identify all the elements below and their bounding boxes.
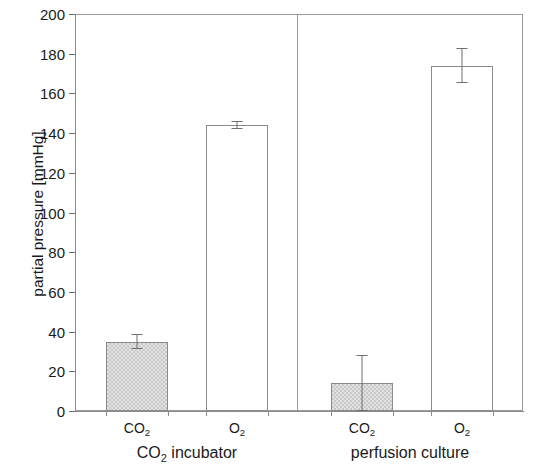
group-label-text: perfusion culture [351, 444, 469, 461]
errorbar-stem [137, 334, 138, 350]
y-tick-label-20: 20 [5, 364, 65, 379]
x-tick-mark [206, 411, 207, 416]
x-label-co2-incubator: CO2 [92, 419, 182, 439]
x-label-co2-perfusion: CO2 [317, 419, 407, 439]
y-tick-label-0: 0 [5, 404, 65, 419]
group-label-subscript: 2 [161, 452, 167, 464]
errorbar-cap-bottom [232, 128, 243, 129]
x-label-o2-incubator: O2 [192, 419, 282, 439]
x-tick-mark [331, 411, 332, 416]
y-tick-label-160: 160 [5, 86, 65, 101]
errorbar-cap-bottom [132, 348, 143, 349]
x-tick-mark [268, 411, 269, 416]
y-axis-line [75, 14, 76, 412]
group-label-tail: incubator [167, 444, 237, 461]
errorbar-o2-perfusion [457, 48, 468, 84]
y-tick-label-40: 40 [5, 325, 65, 340]
x-tick-mark [393, 411, 394, 416]
errorbar-cap-top [232, 121, 243, 122]
bar-o2-perfusion [431, 66, 493, 411]
errorbar-stem [362, 355, 363, 411]
y-tick-label-120: 120 [5, 166, 65, 181]
x-label-text: O [454, 420, 465, 436]
bar-co2-incubator [106, 342, 168, 412]
x-label-subscript: 2 [370, 427, 375, 438]
x-tick-mark [431, 411, 432, 416]
bar-o2-incubator [206, 125, 268, 411]
y-tick-label-140: 140 [5, 126, 65, 141]
errorbar-stem [462, 48, 463, 84]
x-label-text: CO [124, 420, 145, 436]
y-tick-label-100: 100 [5, 206, 65, 221]
bar-chart-figure: partial pressure [mmHg] 200 180 160 140 … [0, 0, 538, 476]
x-axis-line [75, 411, 524, 412]
errorbar-co2-perfusion [357, 355, 368, 411]
errorbar-cap-top [132, 334, 143, 335]
group-label-co2-incubator: CO2 incubator [67, 443, 307, 464]
x-label-text: O [229, 420, 240, 436]
errorbar-co2-incubator [132, 334, 143, 350]
x-label-text: CO [349, 420, 370, 436]
y-tick-label-180: 180 [5, 47, 65, 62]
x-tick-mark [493, 411, 494, 416]
x-tick-mark [168, 411, 169, 416]
group-label-perfusion-culture: perfusion culture [290, 443, 530, 463]
x-tick-mark [106, 411, 107, 416]
errorbar-cap-bottom [357, 410, 368, 411]
y-tick-label-80: 80 [5, 245, 65, 260]
x-label-subscript: 2 [465, 427, 470, 438]
group-divider-line [297, 14, 298, 411]
y-tick-label-60: 60 [5, 285, 65, 300]
errorbar-o2-incubator [232, 121, 243, 129]
y-tick-label-200: 200 [5, 7, 65, 22]
errorbar-cap-bottom [457, 82, 468, 83]
x-label-subscript: 2 [240, 427, 245, 438]
x-label-o2-perfusion: O2 [417, 419, 507, 439]
errorbar-cap-top [357, 355, 368, 356]
errorbar-cap-top [457, 48, 468, 49]
group-label-text: CO [137, 444, 161, 461]
x-label-subscript: 2 [145, 427, 150, 438]
